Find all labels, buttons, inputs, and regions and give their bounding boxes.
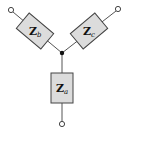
terminal-c-icon xyxy=(115,6,120,11)
zb-subscript: b xyxy=(37,31,42,39)
terminal-a-icon xyxy=(59,121,64,126)
impedance-zc: Z c xyxy=(70,13,107,49)
impedance-za: Z a xyxy=(51,73,73,103)
za-subscript: a xyxy=(64,88,68,96)
za-label: Z xyxy=(56,82,64,95)
zc-subscript: c xyxy=(91,31,95,39)
zb-label: Z xyxy=(29,25,37,38)
wye-impedance-diagram: Z b Z c Z a xyxy=(0,0,145,143)
zc-label: Z xyxy=(83,25,91,38)
terminal-b-icon xyxy=(8,7,13,12)
impedance-zb: Z b xyxy=(16,13,53,49)
center-node-dot xyxy=(60,51,64,55)
